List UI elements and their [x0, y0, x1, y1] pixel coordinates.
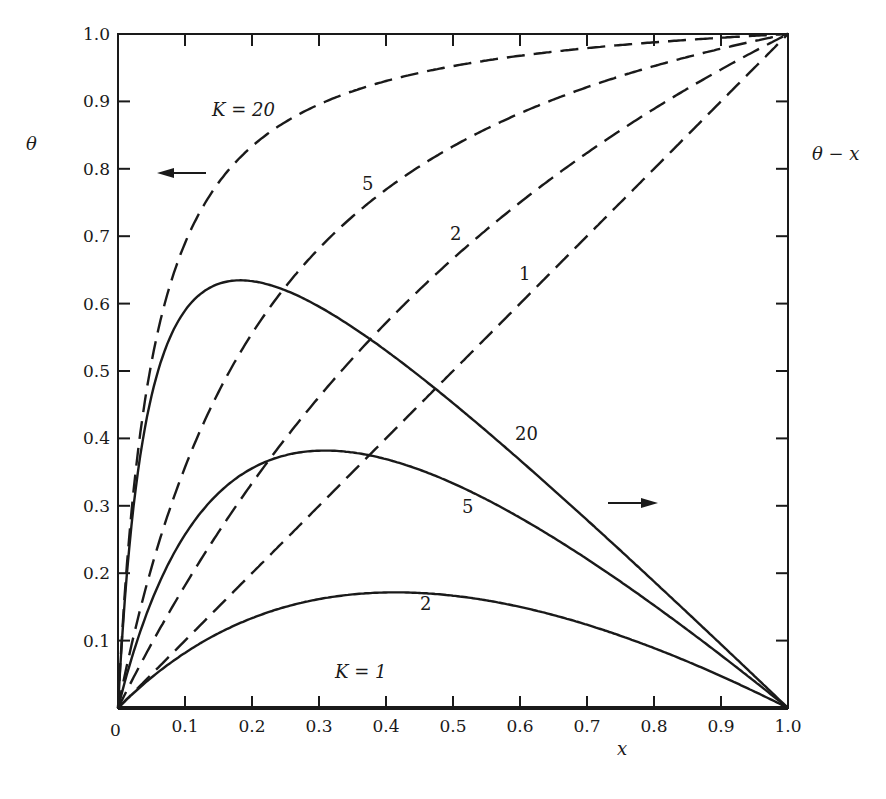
label-k20-solid: 20 [515, 423, 538, 444]
right-arrow-icon [608, 498, 658, 508]
label-k2-dashed: 2 [450, 223, 461, 244]
y-axis-right-title: θ − x [812, 143, 860, 164]
y-tick-label: 0.9 [83, 91, 110, 111]
x-tick-label: 0.6 [506, 716, 533, 736]
x-tick-label: 0.7 [573, 716, 600, 736]
y-tick-label: 0.3 [83, 496, 110, 516]
x-tick-label: 0.9 [707, 716, 734, 736]
y-axis-left-title: θ [26, 133, 37, 154]
theta-minus-x-curve-k5 [118, 451, 788, 708]
x-tick-label: 0.8 [640, 716, 667, 736]
x-tick-label: 0.2 [238, 716, 265, 736]
y-tick-label: 0.2 [83, 563, 110, 583]
label-k1: K = 1 [334, 661, 386, 682]
label-k5-solid: 5 [462, 496, 473, 517]
x-tick-label: 0.1 [171, 716, 198, 736]
origin-label: 0 [110, 720, 121, 740]
y-tick-label: 1.0 [83, 24, 110, 44]
left-arrow-icon [157, 168, 206, 178]
x-tick-label: 0.3 [305, 716, 332, 736]
theta-minus-x-curve-k2 [118, 592, 788, 708]
label-k2-solid: 2 [420, 593, 431, 614]
label-k5-dashed: 5 [362, 173, 373, 194]
x-tick-label: 0.5 [439, 716, 466, 736]
label-k1-dashed: 1 [519, 263, 530, 284]
axis-ticks: 0.10.20.30.40.50.60.70.80.91.00.10.20.30… [83, 24, 802, 736]
x-axis-title: x [617, 738, 627, 759]
chart-canvas: 0.10.20.30.40.50.60.70.80.91.00.10.20.30… [0, 0, 886, 799]
y-tick-label: 0.4 [83, 428, 110, 448]
curves [118, 34, 788, 708]
y-tick-label: 0.5 [83, 361, 110, 381]
x-tick-label: 1.0 [774, 716, 801, 736]
label-k20-dashed: K = 20 [211, 99, 275, 120]
x-tick-label: 0.4 [372, 716, 399, 736]
y-tick-label: 0.8 [83, 159, 110, 179]
theta-curve-k1 [118, 34, 788, 708]
y-tick-label: 0.6 [83, 294, 110, 314]
y-tick-label: 0.1 [83, 631, 110, 651]
y-tick-label: 0.7 [83, 226, 110, 246]
